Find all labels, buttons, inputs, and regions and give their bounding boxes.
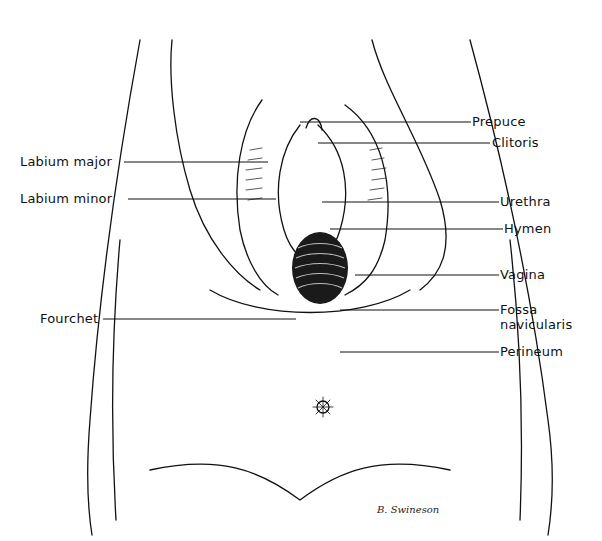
artist-signature: B. Swineson [377,504,439,515]
label-perineum: Perineum [500,345,563,359]
label-clitoris: Clitoris [492,136,539,150]
label-labium-major: Labium major [20,155,112,169]
label-urethra: Urethra [500,195,551,209]
label-fourchet: Fourchet [40,312,98,326]
label-hymen: Hymen [504,222,551,236]
label-vagina: Vagina [500,268,545,282]
label-navicularis: navicularis [500,318,572,332]
label-labium-minor: Labium minor [20,192,112,206]
label-prepuce: Prepuce [472,115,526,129]
label-fossa: Fossa [500,303,537,317]
